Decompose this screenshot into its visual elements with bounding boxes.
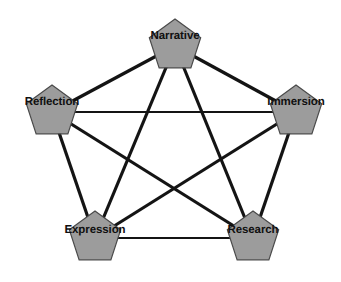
node-pentagon-research[interactable] bbox=[227, 211, 278, 260]
graph-edge bbox=[95, 112, 296, 238]
graph-edge bbox=[175, 46, 253, 238]
edge-layer bbox=[52, 46, 296, 238]
node-pentagon-expression[interactable] bbox=[69, 211, 120, 260]
node-pentagon-narrative[interactable] bbox=[149, 19, 200, 68]
graph-edge bbox=[95, 46, 175, 238]
diagram-canvas bbox=[0, 0, 341, 282]
diagram-container: NarrativeReflectionImmersionExpressionRe… bbox=[0, 0, 341, 282]
graph-edge bbox=[52, 112, 253, 238]
node-pentagon-reflection[interactable] bbox=[26, 85, 77, 134]
node-pentagon-immersion[interactable] bbox=[270, 85, 321, 134]
node-layer bbox=[26, 19, 321, 260]
